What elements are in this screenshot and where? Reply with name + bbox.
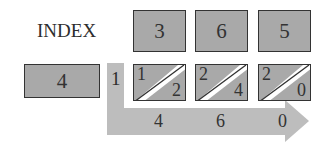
cell-tens-digit: 2	[199, 65, 208, 83]
multiplier-box: 4	[24, 64, 100, 98]
result-digit-1: 4	[154, 111, 163, 132]
cell-ones-digit: 4	[234, 81, 243, 99]
cell-ones-digit: 0	[297, 81, 306, 99]
multiplicand-digit-2: 6	[195, 10, 248, 52]
multiplicand-digit-1: 3	[133, 10, 186, 52]
cell-tens-digit: 1	[137, 65, 146, 83]
cell-ones-digit: 2	[172, 81, 181, 99]
cell-tens-digit: 2	[262, 65, 271, 83]
result-digit-2: 6	[216, 111, 225, 132]
carry-in-digit: 1	[111, 68, 121, 90]
lattice-cell-2: 2 4	[195, 64, 248, 101]
lattice-cell-3: 2 0	[258, 64, 311, 101]
multiplicand-digit-3: 5	[258, 10, 311, 52]
lattice-cell-1: 1 2	[133, 64, 186, 101]
result-digit-3: 0	[278, 111, 287, 132]
index-label: INDEX	[37, 20, 96, 42]
